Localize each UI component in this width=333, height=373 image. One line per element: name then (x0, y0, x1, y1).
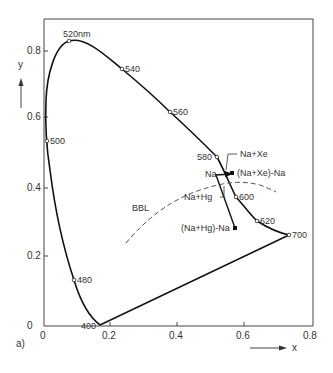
lamp-lines (215, 174, 235, 228)
bbl-label: BBL (132, 203, 149, 213)
x-tick-0.2: 0.2 (102, 330, 116, 341)
wl-label-700: 700 (292, 230, 307, 240)
wl-label-580: 580 (197, 152, 212, 162)
y-tick-0: 0 (27, 320, 33, 331)
panel-label: a) (16, 338, 25, 349)
axis-ticks (44, 51, 244, 326)
x-tick-0.8: 0.8 (303, 330, 317, 341)
na-xe-na-label: (Na+Xe)-Na (237, 168, 285, 178)
purple-line (100, 235, 289, 325)
wl-label-600: 600 (239, 192, 254, 202)
y-axis-arrow-icon (19, 78, 24, 108)
y-axis-label: y (18, 59, 23, 70)
y-tick-0.2: 0.2 (27, 250, 41, 261)
x-tick-0.6: 0.6 (236, 330, 250, 341)
wl-label-520: 520nm (63, 29, 91, 39)
wavelength-markers (45, 39, 291, 282)
x-tick-0.4: 0.4 (169, 330, 183, 341)
na-label: Na (205, 169, 217, 179)
wl-label-560: 560 (173, 107, 188, 117)
na-hg-na-point (233, 226, 237, 230)
y-tick-0.6: 0.6 (27, 111, 41, 122)
wl-label-500: 500 (50, 136, 65, 146)
chromaticity-chart: 0 0.2 0.4 0.6 0.8 0 0.2 0.4 0.6 0.8 y x … (0, 0, 333, 373)
na-xe-label: Na+Xe (240, 149, 268, 159)
y-tick-0.4: 0.4 (27, 182, 41, 193)
x-axis-arrow-icon (250, 346, 287, 351)
x-tick-0: 0 (40, 330, 46, 341)
na-hg-na-label: (Na+Hg)-Na (181, 223, 230, 233)
wl-label-400: 400 (81, 321, 96, 331)
wl-label-540: 540 (125, 64, 140, 74)
wl-label-620: 620 (260, 216, 275, 226)
x-axis-label: x (292, 342, 297, 353)
wl-label-480: 480 (77, 275, 92, 285)
y-tick-0.8: 0.8 (27, 45, 41, 56)
na-xe-na-point (230, 171, 234, 175)
na-hg-label: Na+Hg (184, 192, 212, 202)
